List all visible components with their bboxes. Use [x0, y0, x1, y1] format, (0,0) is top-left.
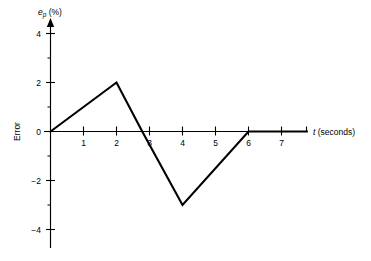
chart-figure: 4 2 0 −2 −4 1 2 3 4 5 6 7 ep (%) t (seco… — [0, 0, 371, 261]
error-vs-time-plot: 4 2 0 −2 −4 1 2 3 4 5 6 7 ep (%) t (seco… — [0, 0, 371, 261]
x-tick-label-2: 2 — [114, 138, 119, 148]
x-axis-unit: (seconds) — [315, 127, 355, 137]
y-axis-arrow-icon — [47, 18, 54, 27]
y-tick-label-0: 0 — [36, 127, 41, 137]
x-tick-label-5: 5 — [213, 138, 218, 148]
error-axis-label-group: Error — [12, 122, 22, 141]
y-tick-label-neg2: −2 — [31, 176, 41, 186]
y-tick-label-2: 2 — [36, 78, 41, 88]
x-tick-label-6: 6 — [246, 138, 251, 148]
x-tick-label-7: 7 — [279, 138, 284, 148]
y-tick-label-4: 4 — [36, 29, 41, 39]
y-axis-group — [47, 18, 54, 248]
x-tick-label-4: 4 — [180, 138, 185, 148]
y-axis-tick-labels: 4 2 0 −2 −4 — [31, 29, 41, 235]
y-axis-unit: (%) — [46, 7, 62, 17]
x-axis-title: t (seconds) — [313, 127, 355, 137]
error-axis-label: Error — [12, 122, 22, 141]
y-tick-label-neg4: −4 — [31, 225, 41, 235]
y-axis-title-group: ep (%) — [38, 7, 62, 19]
x-axis-title-group: t (seconds) — [313, 127, 355, 137]
y-axis-title: ep (%) — [38, 7, 62, 19]
x-tick-label-1: 1 — [81, 138, 86, 148]
x-axis-tick-labels: 1 2 3 4 5 6 7 — [81, 138, 284, 148]
